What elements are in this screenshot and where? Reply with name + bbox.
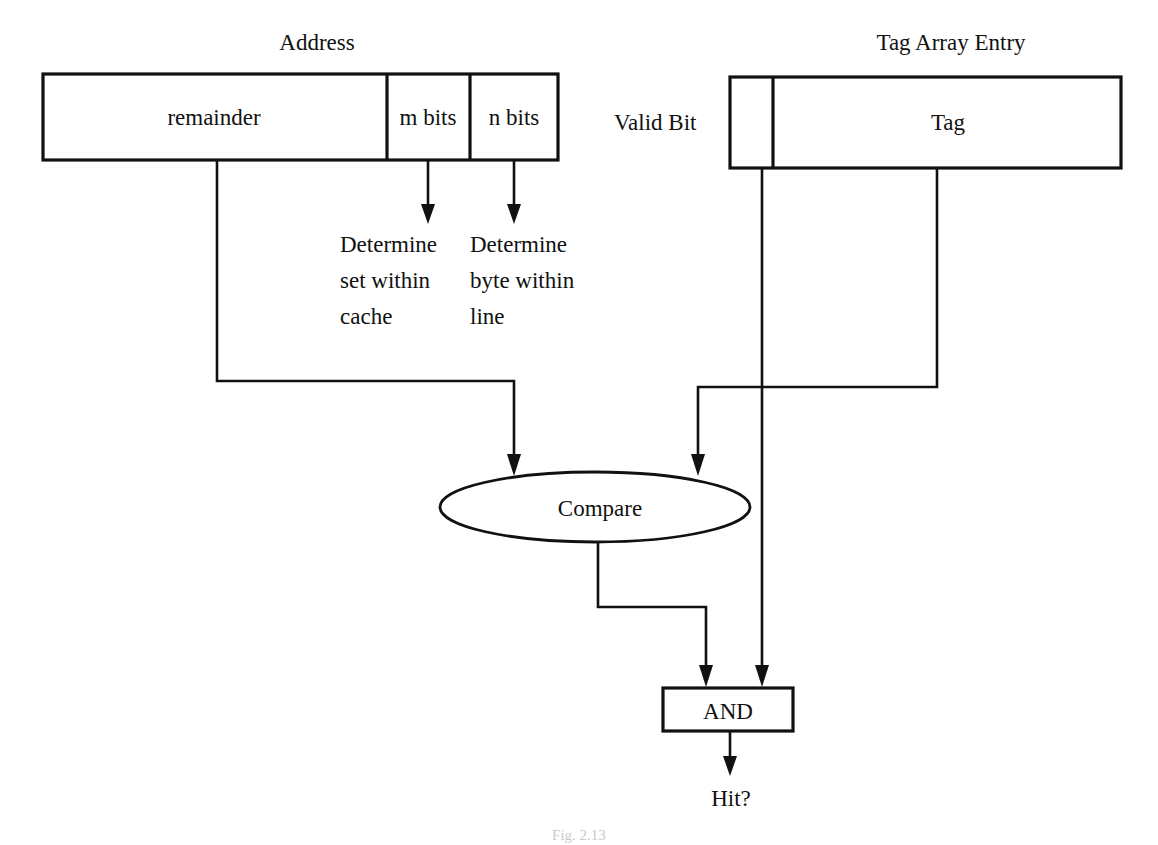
address-field-remainder-label: remainder — [167, 105, 261, 130]
arrowhead-determine-set-icon — [421, 204, 435, 224]
determine-set-line-2: set within — [340, 268, 431, 293]
determine-set-line-3: cache — [340, 304, 392, 329]
cache-tag-comparison-diagram: Address Tag Array Entry remainder m bits… — [0, 0, 1158, 845]
wire-tag-to-compare — [698, 168, 937, 460]
determine-set-line-1: Determine — [340, 232, 437, 257]
figure-caption: Fig. 2.13 — [552, 827, 606, 843]
tag-array-entry-box — [730, 77, 1121, 168]
determine-byte-line-3: line — [470, 304, 505, 329]
arrowhead-and-right-input-icon — [755, 665, 769, 687]
diagram-canvas: Address Tag Array Entry remainder m bits… — [0, 0, 1158, 845]
wire-compare-to-and — [598, 542, 706, 672]
tag-array-entry-title: Tag Array Entry — [876, 30, 1026, 55]
hit-output-label: Hit? — [711, 786, 751, 811]
arrowhead-determine-byte-icon — [507, 204, 521, 224]
address-field-n-bits-label: n bits — [489, 105, 540, 130]
determine-byte-line-1: Determine — [470, 232, 567, 257]
address-field-m-bits-label: m bits — [400, 105, 457, 130]
arrowhead-compare-right-input-icon — [691, 454, 705, 476]
compare-node-label: Compare — [558, 496, 642, 521]
arrowhead-compare-left-input-icon — [507, 454, 521, 476]
valid-bit-label: Valid Bit — [614, 110, 697, 135]
tag-field-label: Tag — [931, 110, 966, 135]
determine-byte-line-2: byte within — [470, 268, 575, 293]
address-title: Address — [279, 30, 354, 55]
and-gate-label: AND — [703, 699, 753, 724]
address-box — [43, 74, 558, 160]
arrowhead-hit-output-icon — [723, 756, 737, 776]
arrowhead-and-left-input-icon — [699, 665, 713, 687]
